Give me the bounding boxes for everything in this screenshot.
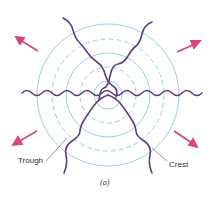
- wave-rays: [22, 18, 202, 173]
- trough-label: Trough: [18, 156, 43, 165]
- wave-diagram: [0, 0, 212, 201]
- crest-label: Crest: [169, 160, 188, 169]
- figure-caption: (a): [100, 178, 109, 187]
